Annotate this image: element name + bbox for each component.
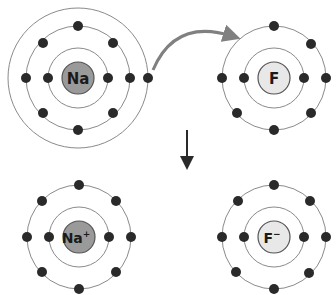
fluorine-label: F bbox=[269, 70, 279, 88]
electron-transfer-arrow bbox=[153, 31, 232, 70]
fluorine-atom: F bbox=[217, 21, 331, 135]
ionic-bond-diagram: Na F bbox=[0, 0, 336, 295]
sodium-atom: Na bbox=[8, 8, 153, 148]
fluoride-ion: F− bbox=[217, 180, 331, 294]
reaction-arrow bbox=[180, 130, 194, 170]
valence-electron bbox=[143, 73, 153, 83]
sodium-ion: Na+ bbox=[22, 180, 136, 294]
sodium-label: Na bbox=[67, 70, 90, 88]
